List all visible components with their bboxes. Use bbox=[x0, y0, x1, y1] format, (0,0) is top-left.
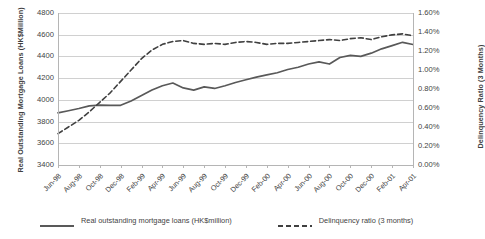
y-axis-left-tick-label: 4800 bbox=[37, 9, 54, 17]
x-axis-tick-mark bbox=[121, 165, 122, 168]
y-axis-right-tick-label: 1.40% bbox=[418, 28, 440, 36]
legend-label: Delinquency ratio (3 months) bbox=[319, 216, 413, 225]
x-axis-tick-mark bbox=[413, 165, 414, 168]
y-axis-left-tick-label: 4000 bbox=[37, 96, 54, 104]
plot-area bbox=[58, 13, 413, 165]
series-line-1 bbox=[58, 42, 413, 113]
x-axis-tick-mark bbox=[58, 165, 59, 168]
y-axis-left-tick-label: 3400 bbox=[37, 161, 54, 169]
series-layer bbox=[58, 13, 413, 165]
x-axis-tick-mark bbox=[329, 165, 330, 168]
y-axis-right-tick-label: 1.00% bbox=[418, 66, 440, 74]
y-axis-right-spine bbox=[413, 13, 414, 166]
x-axis-tick-mark bbox=[267, 165, 268, 168]
x-axis-tick-mark bbox=[79, 165, 80, 168]
y-axis-right-tick-label: 1.20% bbox=[418, 47, 440, 55]
x-axis-tick-mark bbox=[142, 165, 143, 168]
x-axis-tick-mark bbox=[246, 165, 247, 168]
y-axis-left-ticks: 48004600440042004000380036003400 bbox=[20, 13, 54, 165]
x-axis-tick-mark bbox=[162, 165, 163, 168]
legend-swatch-solid bbox=[40, 216, 74, 224]
legend-item[interactable]: Delinquency ratio (3 months) bbox=[278, 216, 413, 225]
y-axis-right-tick-label: 0.00% bbox=[418, 161, 440, 169]
y-axis-left-tick-label: 4400 bbox=[37, 52, 54, 60]
legend-item[interactable]: Real outstanding mortgage loans (HK$mill… bbox=[40, 216, 232, 225]
x-axis-tick-mark bbox=[204, 165, 205, 168]
y-axis-right-tick-label: 0.20% bbox=[418, 142, 440, 150]
y-axis-right-tick-label: 0.80% bbox=[418, 85, 440, 93]
legend-label: Real outstanding mortgage loans (HK$mill… bbox=[81, 216, 232, 225]
x-axis-tick-mark bbox=[288, 165, 289, 168]
x-axis-tick-mark bbox=[100, 165, 101, 168]
y-axis-left-tick-label: 3800 bbox=[37, 118, 54, 126]
chart-legend: Real outstanding mortgage loans (HK$mill… bbox=[40, 212, 440, 228]
legend-swatch-dashed bbox=[278, 216, 312, 224]
x-axis-tick-mark bbox=[350, 165, 351, 168]
y-axis-left-tick-label: 4200 bbox=[37, 74, 54, 82]
y-axis-right-tick-label: 0.40% bbox=[418, 123, 440, 131]
x-axis-tick-mark bbox=[371, 165, 372, 168]
x-axis-tick-mark bbox=[309, 165, 310, 168]
y-axis-left-spine bbox=[58, 13, 59, 166]
y-axis-right-tick-label: 1.60% bbox=[418, 9, 440, 17]
y-axis-right-title: Delinquency Ratio (3 Months) bbox=[476, 17, 485, 177]
y-axis-right-tick-label: 0.60% bbox=[418, 104, 440, 112]
x-axis-tick-mark bbox=[183, 165, 184, 168]
y-axis-right-ticks: 1.60%1.40%1.20%1.00%0.80%0.60%0.40%0.20%… bbox=[418, 13, 454, 165]
y-axis-left-tick-label: 4600 bbox=[37, 31, 54, 39]
y-axis-left-tick-label: 3600 bbox=[37, 139, 54, 147]
x-axis-tick-mark bbox=[392, 165, 393, 168]
x-axis-tick-mark bbox=[225, 165, 226, 168]
series-line-2 bbox=[58, 34, 413, 134]
x-axis-spine bbox=[58, 165, 414, 166]
